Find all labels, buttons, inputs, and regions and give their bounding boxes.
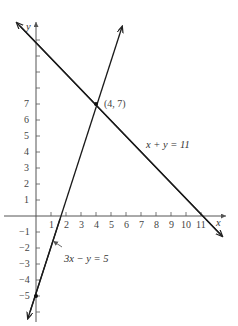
x-tick-label: 6 (124, 219, 129, 230)
y-intercept-point (34, 294, 38, 298)
line-label-3x-minus-y: 3x − y = 5 (63, 253, 109, 264)
intersection-point (94, 102, 98, 106)
x-tick-label: 1 (49, 219, 54, 230)
x-tick-label: 7 (139, 219, 144, 230)
x-tick-label: 3 (79, 219, 84, 230)
y-tick-label: 6 (24, 114, 29, 125)
y-tick-label: 3 (24, 162, 29, 173)
label-pointer-arrow (53, 241, 62, 247)
x-axis-label: x (215, 217, 221, 228)
line-label-x-plus-y: x + y = 11 (145, 139, 190, 150)
y-tick-label: 1 (24, 194, 29, 205)
y-tick-label: 4 (24, 146, 29, 157)
graph-canvas: 1 2 3 4 5 6 7 8 9 10 11 x (0, 0, 238, 326)
x-tick-label: 10 (181, 219, 191, 230)
y-tick-label: −4 (19, 274, 30, 285)
x-axis-ticks (51, 212, 201, 216)
x-tick-label: 8 (154, 219, 159, 230)
y-tick-label: 7 (24, 98, 29, 109)
x-axis: 1 2 3 4 5 6 7 8 9 10 11 x (4, 212, 226, 230)
y-tick-label: −3 (19, 258, 30, 269)
y-axis-label: y (25, 21, 31, 32)
x-tick-label: 2 (64, 219, 69, 230)
y-tick-label: 5 (24, 130, 29, 141)
x-tick-label: 9 (169, 219, 174, 230)
y-axis-ticks (36, 40, 40, 312)
x-tick-label: 5 (109, 219, 114, 230)
y-tick-label: 2 (24, 178, 29, 189)
x-tick-label: 4 (94, 219, 99, 230)
y-axis: y 1 2 3 4 5 6 7 −1 −2 −3 −4 −5 (19, 21, 40, 322)
y-tick-label: −2 (19, 242, 30, 253)
x-tick-label: 11 (196, 219, 206, 230)
y-tick-label: −1 (19, 226, 30, 237)
intersection-label: (4, 7) (104, 98, 126, 110)
y-tick-label: −5 (19, 290, 30, 301)
